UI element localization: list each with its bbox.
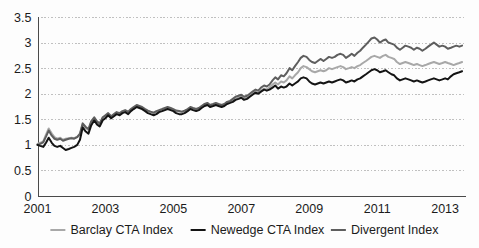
x-tick-label-2003: 2003 — [92, 202, 120, 216]
x-tick-label-2001: 2001 — [24, 202, 52, 216]
legend-item-barclay-cta-index[interactable]: Barclay CTA Index — [50, 223, 173, 237]
x-tick-label-2013: 2013 — [431, 202, 459, 216]
legend-item-newedge-cta-index[interactable]: Newedge CTA Index — [191, 223, 325, 237]
series-line-newedge-cta-index — [38, 69, 463, 150]
gridline-group — [38, 18, 466, 197]
x-tick-label-2007: 2007 — [227, 202, 255, 216]
cta-index-line-chart: 00.511.522.533.5 20012003200520072009201… — [0, 0, 479, 248]
y-tick-label-0.5: 0.5 — [14, 164, 31, 178]
chart-svg: 00.511.522.533.5 20012003200520072009201… — [0, 0, 479, 248]
y-tick-label-2: 2 — [25, 87, 32, 101]
x-tick-label-2011: 2011 — [364, 202, 391, 216]
chart-legend: Barclay CTA IndexNewedge CTA IndexDiverg… — [50, 223, 439, 237]
x-tick-label-2005: 2005 — [159, 202, 187, 216]
y-tick-label-1.5: 1.5 — [14, 113, 31, 127]
y-axis-tick-labels: 00.511.522.533.5 — [14, 11, 31, 204]
x-axis-tick-labels: 2001200320052007200920112013 — [24, 202, 459, 216]
x-tick-label-2009: 2009 — [295, 202, 323, 216]
y-tick-label-1: 1 — [25, 138, 32, 152]
series-line-divergent-index — [38, 37, 463, 144]
data-series-group — [38, 37, 463, 150]
y-tick-label-3.5: 3.5 — [14, 11, 31, 25]
legend-label: Divergent Index — [351, 223, 439, 237]
legend-item-divergent-index[interactable]: Divergent Index — [331, 223, 439, 237]
y-tick-label-2.5: 2.5 — [14, 62, 31, 76]
y-tick-label-3: 3 — [25, 36, 32, 50]
legend-label: Newedge CTA Index — [211, 223, 325, 237]
legend-label: Barclay CTA Index — [70, 223, 173, 237]
